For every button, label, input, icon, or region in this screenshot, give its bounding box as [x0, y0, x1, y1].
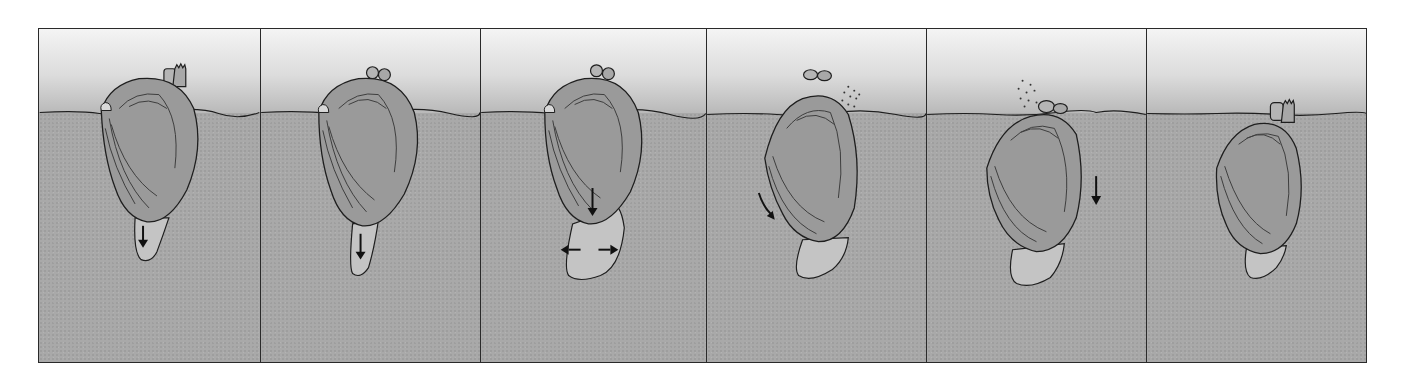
shell-icon	[765, 96, 857, 242]
panel-5	[926, 29, 1146, 362]
clam-illustration	[39, 29, 260, 362]
foot-icon	[796, 238, 848, 279]
clam-illustration	[1147, 29, 1367, 362]
shell-icon	[318, 78, 417, 226]
arrow-left-icon	[561, 245, 569, 255]
figure-frame	[38, 28, 1367, 363]
panel-2	[260, 29, 480, 362]
panel-3	[480, 29, 706, 362]
panel-6	[1146, 29, 1367, 362]
panel-4	[706, 29, 926, 362]
siphon-icon	[591, 65, 615, 80]
foot-icon	[135, 218, 169, 261]
clam-illustration	[927, 29, 1146, 362]
clam-illustration	[707, 29, 926, 362]
shell-icon	[1216, 123, 1301, 253]
clam-illustration	[481, 29, 706, 362]
clam-illustration	[261, 29, 480, 362]
shell-icon	[987, 115, 1081, 252]
siphon-icon	[804, 70, 832, 81]
siphon-icon	[1270, 100, 1294, 123]
sediment-particles	[1018, 80, 1038, 108]
shell-icon	[101, 78, 198, 222]
shell-icon	[544, 78, 641, 224]
panel-1	[39, 29, 260, 362]
siphon-icon	[1038, 101, 1067, 114]
sediment-surface-line	[927, 111, 1146, 116]
sediment-particles	[841, 86, 860, 108]
arrow-down-icon	[1091, 196, 1101, 205]
sediment-surface-line	[1147, 112, 1367, 115]
foot-icon	[351, 220, 379, 276]
